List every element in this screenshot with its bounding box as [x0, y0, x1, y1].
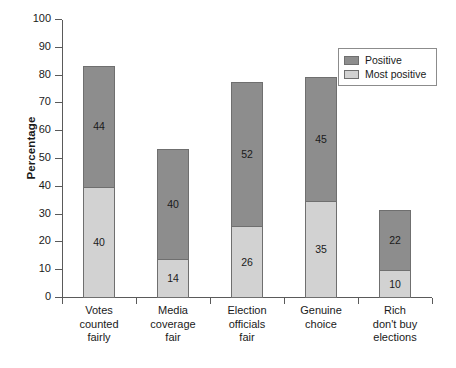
y-tick-label-0: 0 — [45, 290, 51, 302]
bar-group[interactable]: 4440 — [83, 66, 115, 298]
bar-chart: Percentage 0102030405060708090100 444040… — [0, 0, 456, 368]
y-tick-50: 50 — [55, 158, 62, 159]
legend-item[interactable]: Positive — [344, 53, 431, 67]
bar-value-label: 40 — [167, 199, 179, 210]
bar-segment[interactable]: 44 — [83, 66, 115, 188]
bar-segment[interactable]: 45 — [305, 77, 337, 202]
bar-value-label: 52 — [241, 149, 253, 160]
y-tick-20: 20 — [55, 241, 62, 242]
bar-segment[interactable]: 35 — [305, 201, 337, 298]
bar-value-label: 44 — [93, 121, 105, 132]
x-axis-label: Richdon't buyelections — [349, 304, 441, 345]
bar-value-label: 10 — [389, 279, 401, 290]
bar-segment[interactable]: 40 — [83, 187, 115, 298]
bar-segment[interactable]: 14 — [157, 259, 189, 298]
legend-label: Positive — [365, 54, 402, 66]
legend-swatch-icon — [344, 70, 359, 79]
bar-group[interactable]: 2210 — [379, 210, 411, 297]
y-tick-100: 100 — [55, 19, 62, 20]
bar-segment[interactable]: 26 — [231, 226, 263, 298]
y-tick-90: 90 — [55, 47, 62, 48]
bar-value-label: 35 — [315, 244, 327, 255]
bar-value-label: 40 — [93, 237, 105, 248]
bar-group[interactable]: 4014 — [157, 149, 189, 297]
y-tick-label-50: 50 — [39, 151, 51, 163]
bar-group[interactable]: 5226 — [231, 82, 263, 297]
y-tick-label-30: 30 — [39, 207, 51, 219]
y-tick-10: 10 — [55, 269, 62, 270]
chart-legend: PositiveMost positive — [338, 48, 437, 86]
y-tick-label-90: 90 — [39, 40, 51, 52]
y-tick-70: 70 — [55, 102, 62, 103]
y-tick-label-20: 20 — [39, 234, 51, 246]
bar-value-label: 26 — [241, 257, 253, 268]
y-tick-40: 40 — [55, 186, 62, 187]
y-tick-label-80: 80 — [39, 68, 51, 80]
bar-value-label: 22 — [389, 235, 401, 246]
bar-segment[interactable]: 52 — [231, 82, 263, 227]
y-tick-60: 60 — [55, 130, 62, 131]
bar-group[interactable]: 4535 — [305, 77, 337, 297]
y-axis-line — [62, 20, 63, 298]
bar-segment[interactable]: 40 — [157, 149, 189, 260]
legend-label: Most positive — [365, 68, 426, 80]
y-tick-80: 80 — [55, 75, 62, 76]
y-tick-0: 0 — [55, 297, 62, 298]
bar-value-label: 14 — [167, 273, 179, 284]
y-axis-title: Percentage — [25, 88, 37, 208]
bar-value-label: 45 — [315, 134, 327, 145]
bar-segment[interactable]: 10 — [379, 270, 411, 298]
bar-segment[interactable]: 22 — [379, 210, 411, 271]
y-tick-label-40: 40 — [39, 179, 51, 191]
y-tick-label-60: 60 — [39, 123, 51, 135]
y-tick-label-70: 70 — [39, 95, 51, 107]
y-tick-30: 30 — [55, 214, 62, 215]
y-tick-label-10: 10 — [39, 262, 51, 274]
y-tick-label-100: 100 — [33, 12, 51, 24]
legend-item[interactable]: Most positive — [344, 67, 431, 81]
legend-swatch-icon — [344, 56, 359, 65]
